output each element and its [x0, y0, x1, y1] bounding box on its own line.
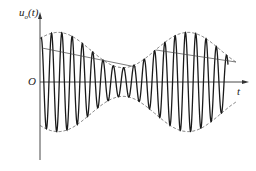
- x-axis: [40, 80, 249, 84]
- x-axis-label: t: [237, 86, 240, 97]
- origin-label: O: [28, 76, 36, 87]
- y-axis: [38, 12, 42, 160]
- am-waveform-figure: [0, 0, 256, 171]
- y-axis-label: uo(t): [19, 7, 38, 21]
